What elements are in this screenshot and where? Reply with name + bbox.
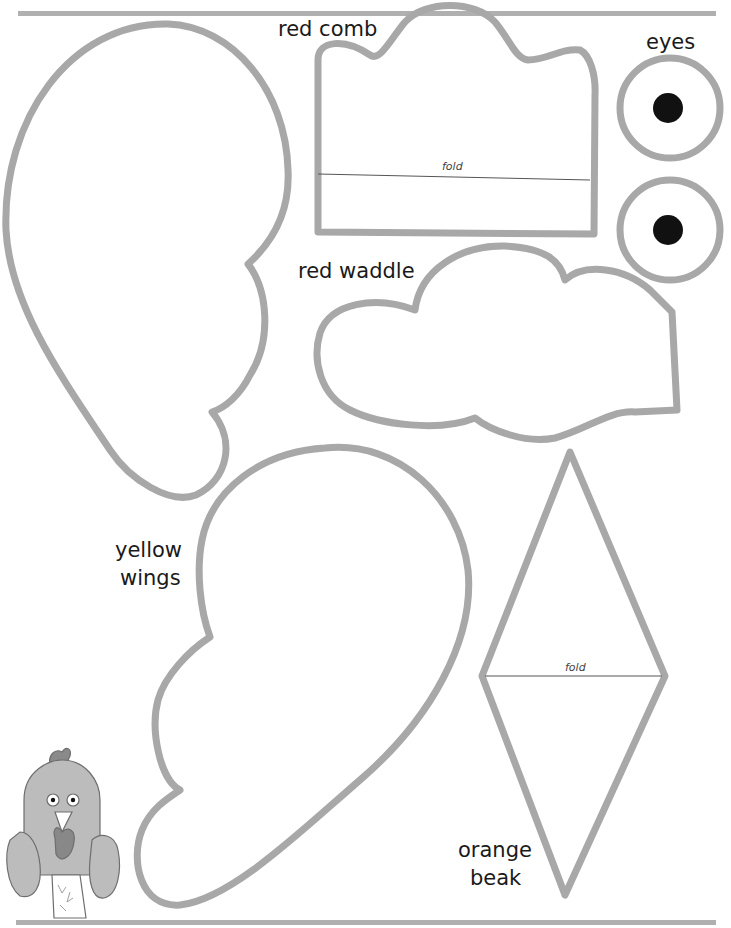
wings-label-line2: wings xyxy=(120,566,181,590)
pattern-pieces xyxy=(0,0,731,928)
comb-label: red comb xyxy=(278,17,377,41)
comb-fold-label: fold xyxy=(442,160,463,173)
template-page: red comb fold eyes red waddle yellow win… xyxy=(0,0,731,928)
eye-pupil-2 xyxy=(653,215,683,245)
beak-label-line2: beak xyxy=(470,866,521,890)
rooster-preview-illustration xyxy=(7,749,120,918)
waddle-label: red waddle xyxy=(298,259,415,283)
top-rule xyxy=(18,11,716,16)
bottom-rule xyxy=(16,920,716,925)
comb-fold-line xyxy=(318,174,590,180)
beak-label-line1: orange xyxy=(458,838,532,862)
body-piece-outline xyxy=(6,24,288,497)
eye-pupil-1 xyxy=(653,93,683,123)
wing-piece-outline xyxy=(137,447,468,905)
eyes-label: eyes xyxy=(646,30,695,54)
preview-wing-right xyxy=(90,835,120,898)
wings-label-line1: yellow xyxy=(115,538,182,562)
beak-fold-label: fold xyxy=(565,661,586,674)
